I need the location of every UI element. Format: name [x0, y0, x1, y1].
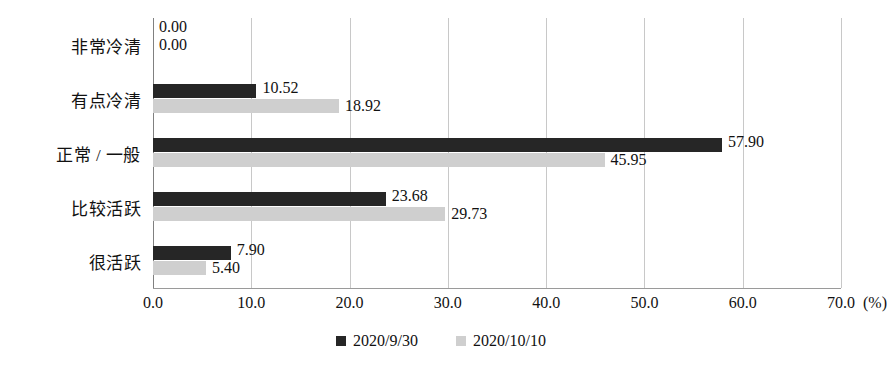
category-row: 比较活跃23.6829.73 — [153, 180, 841, 234]
x-tick-label: 30.0 — [434, 294, 462, 312]
bar — [153, 153, 605, 167]
category-row: 有点冷清10.5218.92 — [153, 72, 841, 126]
legend-label: 2020/9/30 — [353, 332, 418, 350]
bar — [153, 261, 206, 275]
category-label: 有点冷清 — [71, 87, 141, 112]
plot-area: 非常冷清0.000.00有点冷清10.5218.92正常 / 一般57.9045… — [153, 18, 841, 288]
legend-swatch-icon — [336, 336, 346, 346]
x-axis-unit-label: (%) — [863, 294, 887, 312]
category-row: 非常冷清0.000.00 — [153, 18, 841, 72]
bar-value-label: 29.73 — [451, 207, 487, 221]
x-tick-label: 10.0 — [237, 294, 265, 312]
x-tick-label: 50.0 — [630, 294, 658, 312]
x-tick-label: 20.0 — [336, 294, 364, 312]
x-tick-label: 40.0 — [532, 294, 560, 312]
legend-swatch-icon — [456, 336, 466, 346]
bar — [153, 207, 445, 221]
bar-group: 0.000.00 — [153, 18, 841, 72]
bar-value-label: 0.00 — [159, 38, 187, 52]
bar-value-label: 5.40 — [212, 261, 240, 275]
bar-group: 57.9045.95 — [153, 126, 841, 180]
bar-value-label: 0.00 — [159, 20, 187, 34]
bar-value-label: 7.90 — [237, 243, 265, 257]
bar — [153, 138, 722, 152]
legend-label: 2020/10/10 — [473, 332, 546, 350]
x-axis-line — [153, 288, 841, 289]
bar — [153, 99, 339, 113]
bar-group: 23.6829.73 — [153, 180, 841, 234]
chart-legend: 2020/9/302020/10/10 — [0, 332, 882, 350]
bar-group: 7.905.40 — [153, 234, 841, 288]
category-label: 非常冷清 — [71, 33, 141, 58]
bar-value-label: 18.92 — [345, 99, 381, 113]
gridline — [841, 18, 842, 288]
bar — [153, 84, 256, 98]
bar-group: 10.5218.92 — [153, 72, 841, 126]
category-label: 正常 / 一般 — [56, 141, 141, 166]
bar-value-label: 23.68 — [392, 189, 428, 203]
x-tick-label: 0.0 — [143, 294, 163, 312]
bar — [153, 246, 231, 260]
bar-value-label: 45.95 — [611, 153, 647, 167]
category-label: 比较活跃 — [71, 195, 141, 220]
category-row: 很活跃7.905.40 — [153, 234, 841, 288]
bar-value-label: 10.52 — [262, 81, 298, 95]
category-label: 很活跃 — [89, 249, 142, 274]
bar — [153, 192, 386, 206]
legend-item[interactable]: 2020/10/10 — [456, 332, 546, 350]
bar-value-label: 57.90 — [728, 135, 764, 149]
category-row: 正常 / 一般57.9045.95 — [153, 126, 841, 180]
legend-item[interactable]: 2020/9/30 — [336, 332, 418, 350]
x-tick-label: 70.0 — [827, 294, 855, 312]
x-tick-label: 60.0 — [729, 294, 757, 312]
